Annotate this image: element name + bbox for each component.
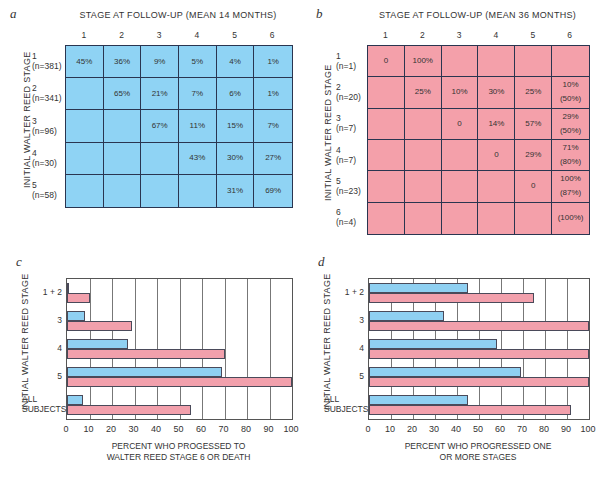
grid-cell: 1% (254, 78, 292, 110)
bar-14-month (369, 311, 444, 321)
cell-value: 45% (76, 55, 92, 69)
cell-value: 31% (227, 184, 243, 198)
category-label: 5 (318, 371, 364, 381)
grid-cell: 45% (66, 46, 104, 78)
category-text: 3 (16, 315, 62, 325)
grid-cell (104, 110, 142, 142)
grid-cell: 0 (515, 171, 552, 202)
x-tick: 80 (234, 424, 258, 434)
grid-cell (478, 46, 515, 77)
bar-14-month (369, 367, 521, 377)
category-label: 4 (318, 343, 364, 353)
grid-cell (368, 77, 405, 108)
x-axis-label-line2: OR MORE STAGES (368, 452, 588, 463)
category-text: 5 (318, 371, 364, 381)
column-header: 1 (74, 30, 94, 40)
bar-14-month (67, 339, 128, 349)
row-header: 2(n=20) (336, 82, 361, 102)
row-header: 3(n=96) (32, 116, 57, 136)
grid-cell: 100% (405, 46, 442, 77)
y-axis-label: INITIAL WALTER REED STAGE (22, 51, 32, 188)
x-tick: 0 (54, 424, 78, 434)
grid-cell (442, 203, 479, 234)
x-tick: 10 (378, 424, 402, 434)
transition-grid: 0100%25%10%30%25%10%(50%)014%57%29%(50%)… (367, 45, 590, 235)
table-title: STAGE AT FOLLOW-UP (MEAN 36 MONTHS) (367, 10, 588, 20)
cell-value: 69% (265, 184, 281, 198)
column-header: 2 (112, 30, 132, 40)
cell-value: (50%) (560, 92, 581, 106)
row-header: 6(n=4) (336, 207, 356, 227)
grid-cell: 67% (141, 110, 179, 142)
grid-cell: 11% (179, 110, 217, 142)
column-header: 6 (560, 30, 580, 40)
column-header: 4 (486, 30, 506, 40)
column-header: 3 (449, 30, 469, 40)
row-stage: 1 (32, 51, 62, 61)
grid-cell: 7% (254, 110, 292, 142)
grid-cell: 4% (217, 46, 255, 78)
x-axis-label: PERCENT WHO PROGESSED TOWALTER REED STAG… (66, 441, 291, 463)
cell-value: 1% (267, 55, 279, 69)
row-header: 4(n=7) (336, 145, 356, 165)
grid-cell: 29%(50%) (552, 109, 589, 140)
bar-36-month (369, 377, 589, 387)
cell-value: 30% (488, 85, 504, 99)
x-tick: 90 (257, 424, 281, 434)
grid-cell (66, 78, 104, 110)
grid-cell: 9% (141, 46, 179, 78)
bar-14-month (369, 339, 497, 349)
bar-36-month (67, 293, 90, 303)
x-tick: 10 (77, 424, 101, 434)
row-header: 3(n=7) (336, 113, 356, 133)
grid-cell (405, 109, 442, 140)
grid-cell (478, 203, 515, 234)
category-text: SUBJECTS (324, 404, 370, 414)
x-tick: 70 (212, 424, 236, 434)
grid-cell: 57% (515, 109, 552, 140)
grid-cell: (100%) (552, 203, 589, 234)
grid-cell (104, 143, 142, 175)
grid-cell: 7% (179, 78, 217, 110)
table-title: STAGE AT FOLLOW-UP (MEAN 14 MONTHS) (65, 10, 291, 20)
cell-value: 36% (114, 55, 130, 69)
panel-letter: d (318, 254, 325, 270)
category-label: 4 (16, 343, 62, 353)
grid-cell (141, 143, 179, 175)
category-text: 3 (318, 315, 364, 325)
row-stage: 6 (336, 207, 356, 217)
row-n: (n=7) (336, 123, 356, 133)
grid-cell (442, 140, 479, 171)
bar-14-month (67, 311, 85, 321)
x-tick: 30 (122, 424, 146, 434)
cell-value: 67% (152, 119, 168, 133)
cell-value: 25% (415, 85, 431, 99)
cell-value: 21% (152, 87, 168, 101)
cell-value: 0 (384, 54, 388, 68)
row-n: (n=20) (336, 92, 361, 102)
row-header: 5(n=23) (336, 176, 361, 196)
category-label: 1 + 2 (318, 287, 364, 297)
cell-value: 14% (488, 117, 504, 131)
row-n: (n=23) (336, 186, 361, 196)
category-text: 4 (318, 343, 364, 353)
x-axis-label-line1: PERCENT WHO PROGESSED TO (66, 441, 291, 452)
cell-value: 0 (457, 117, 461, 131)
row-stage: 2 (32, 83, 62, 93)
grid-cell (179, 175, 217, 207)
grid-cell: 69% (254, 175, 292, 207)
category-label: 1 + 2 (16, 287, 62, 297)
category-label: 5 (16, 371, 62, 381)
row-n: (n=58) (32, 190, 57, 200)
bar-14-month (67, 283, 69, 293)
bar-36-month (67, 349, 225, 359)
grid-cell (66, 143, 104, 175)
grid-cell (66, 175, 104, 207)
x-axis-label-line2: WALTER REED STAGE 6 OR DEATH (66, 452, 291, 463)
x-tick: 0 (356, 424, 380, 434)
grid-cell: 15% (217, 110, 255, 142)
bar-14-month (369, 395, 468, 405)
cell-value: 7% (192, 87, 204, 101)
cell-value: 43% (189, 151, 205, 165)
row-stage: 3 (32, 116, 57, 126)
